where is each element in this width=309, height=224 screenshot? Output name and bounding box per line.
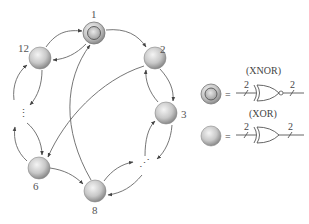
node-label-12: 12 (18, 42, 29, 54)
xor-node (155, 102, 177, 124)
edge-2-to-6 (48, 66, 144, 157)
node-12: 12 (18, 42, 51, 69)
xor-input-width: 2 (244, 121, 249, 132)
edge-3-to-dots (157, 125, 172, 159)
edge-dots-to-12 (14, 65, 27, 100)
node-3: 3 (155, 102, 187, 124)
edge-8-to-1 (70, 45, 91, 180)
xor-node (84, 180, 106, 202)
node-6: 6 (28, 157, 50, 192)
xnor-node-inner (88, 27, 101, 40)
node-label-3: 3 (181, 108, 187, 120)
legend-xor: = (XOR) 2 2 (201, 108, 304, 146)
xor-output-width: 2 (288, 121, 293, 132)
node-8: 8 (84, 180, 106, 216)
edge-1-to-12 (53, 44, 86, 60)
edge-12-to-1 (46, 31, 82, 47)
ellipsis-left: ⋮ (18, 107, 29, 119)
ellipsis-right: ⋰ (139, 157, 150, 169)
legend-xor-gate-name: (XOR) (249, 108, 277, 120)
legend-xnor-node-inner (205, 88, 217, 100)
node-2: 2 (144, 43, 166, 69)
edge-12-to-dots (30, 70, 42, 105)
xnor-input-width: 2 (244, 79, 249, 90)
legend-xnor: = (XNOR) 2 2 (201, 65, 304, 104)
edge-dots-to-8 (108, 175, 142, 195)
legend-xor-node (201, 126, 221, 146)
node-label-2: 2 (160, 43, 166, 55)
xnor-output-width: 2 (290, 79, 295, 90)
xor-node (29, 47, 51, 69)
node-label-6: 6 (33, 180, 39, 192)
xor-node (28, 157, 50, 179)
legend-xnor-gate-name: (XNOR) (246, 65, 281, 77)
xor-gate-body (257, 127, 279, 143)
edge-dots-to-3 (145, 121, 155, 156)
edge-3-to-2 (146, 70, 158, 102)
ring-oscillator-diagram: ⋮ ⋰ 1 2 3 6 8 12 = (XNOR) 2 2 (0, 0, 309, 224)
xnor-gate-body (257, 85, 279, 101)
edge-8-to-dots (104, 162, 133, 181)
node-label-1: 1 (91, 8, 97, 20)
legend-xnor-equals: = (225, 89, 231, 100)
edge-2-to-3 (160, 69, 173, 101)
legend-xor-equals: = (225, 131, 231, 142)
edge-dots-to-6 (27, 123, 42, 155)
xnor-gate-bubble (279, 91, 283, 95)
edge-6-to-8 (50, 168, 83, 184)
node-label-8: 8 (92, 204, 98, 216)
edge-1-to-2 (106, 30, 146, 47)
edge-6-to-dots (15, 127, 28, 161)
node-1: 1 (83, 8, 105, 44)
